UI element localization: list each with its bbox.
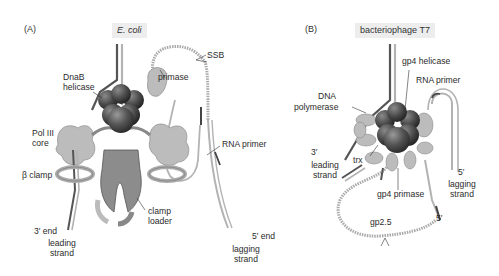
label-primase: primase: [158, 72, 189, 82]
label-dna-pol-line1: DNA: [302, 91, 352, 101]
label-lagging-b-line2: strand: [444, 189, 480, 199]
replication-fork-figure: (A) E. coli SSB DnaB helicase primase Po…: [0, 0, 499, 276]
label-leading-line1: leading: [45, 238, 79, 248]
label-clamp-loader-line2: loader: [148, 216, 172, 226]
label-pol3-line2: core: [32, 138, 49, 148]
label-3-prime-b: 3′: [311, 147, 317, 157]
figure-graphics: [0, 0, 499, 276]
label-ssb: SSB: [207, 50, 224, 60]
label-beta-clamp: β clamp: [22, 170, 52, 180]
label-3-end: 3′ end: [34, 226, 57, 236]
label-leading-b-line2: strand: [308, 170, 342, 180]
label-gp25: gp2.5: [370, 217, 392, 227]
label-gp4-helicase: gp4 helicase: [402, 56, 450, 66]
label-pol3-line1: Pol III: [32, 128, 54, 138]
panel-b-organism-title: bacteriophage T7: [355, 23, 435, 38]
label-leading-b-line1: leading: [308, 160, 342, 170]
label-lagging-line2: strand: [228, 254, 264, 264]
label-lagging-b-line1: lagging: [444, 179, 480, 189]
label-dnab-line1: DnaB: [63, 72, 85, 82]
label-5-prime-a: 5′: [458, 167, 464, 177]
label-clamp-loader-line1: clamp: [148, 206, 171, 216]
panel-b-letter: (B): [305, 24, 317, 34]
label-5-prime-b: 5′: [436, 213, 442, 223]
label-trx: trx: [353, 155, 363, 165]
label-dnab-line2: helicase: [63, 82, 95, 92]
label-5-end: 5′ end: [252, 231, 275, 241]
label-gp4-primase: gp4 primase: [377, 189, 424, 199]
label-rna-primer-a: RNA primer: [222, 139, 266, 149]
panel-a-organism-title: E. coli: [112, 23, 147, 38]
label-dna-pol-line2: polymerase: [294, 102, 338, 112]
label-leading-line2: strand: [45, 248, 79, 258]
label-rna-primer-b: RNA primer: [416, 75, 460, 85]
panel-a-letter: (A): [24, 24, 36, 34]
label-lagging-line1: lagging: [228, 244, 264, 254]
